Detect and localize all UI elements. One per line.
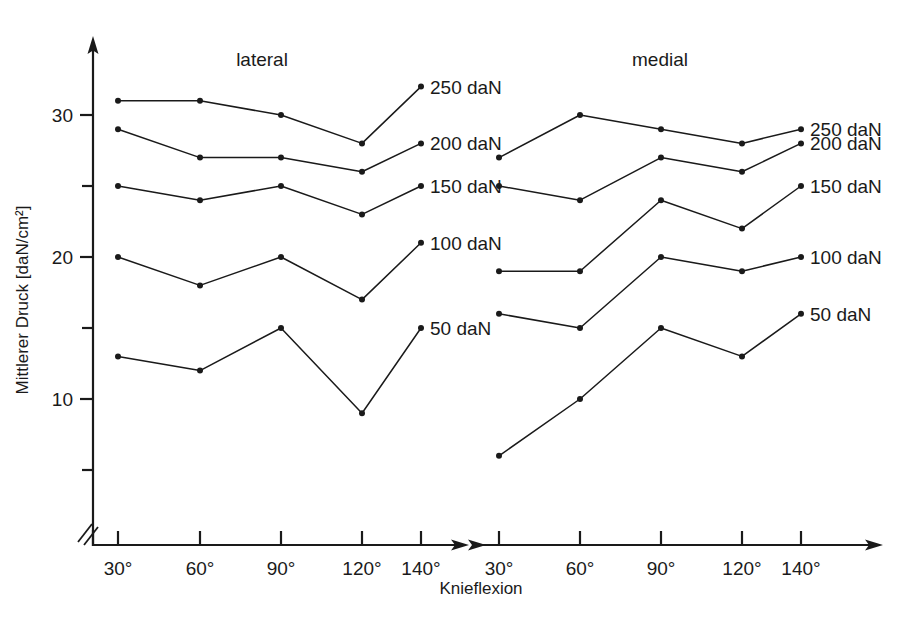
data-point [658,325,664,331]
x-tick-label-lateral-2: 90° [267,558,296,579]
data-point [798,311,804,317]
data-point [577,112,583,118]
x-tick-label-medial-3: 120° [722,558,761,579]
data-point [418,84,424,90]
series-polyline [499,115,801,158]
data-point [197,368,203,374]
series-label-lateral-250-daN: 250 daN [430,77,502,98]
series-medial-250-daN [496,112,804,161]
y-tick-label-20: 20 [52,247,73,268]
data-point [577,325,583,331]
data-point [115,98,121,104]
series-polyline [118,129,421,172]
data-point [496,453,502,459]
data-point [798,126,804,132]
data-point [798,183,804,189]
line-chart-canvas: 102030 30°60°90°120°140°30°60°90°120°140… [0,0,905,622]
data-point [359,410,365,416]
x-tick-label-medial-4: 140° [781,558,820,579]
series-lateral-200-daN [115,126,424,175]
chart-figure: 102030 30°60°90°120°140°30°60°90°120°140… [0,0,905,622]
data-point [197,282,203,288]
series-medial-100-daN [496,254,804,331]
data-point [197,155,203,161]
y-tick-group: 102030 [52,105,93,470]
data-point [278,183,284,189]
data-point [359,169,365,175]
y-tick-label-30: 30 [52,105,73,126]
series-medial-150-daN [496,183,804,274]
data-point [359,211,365,217]
data-point [115,126,121,132]
series-label-lateral-50-daN: 50 daN [430,318,491,339]
panel-title-lateral: lateral [236,49,288,70]
series-polyline [118,186,421,214]
series-polyline [499,257,801,328]
series-label-lateral-150-daN: 150 daN [430,176,502,197]
series-lateral-150-daN [115,183,424,217]
series-polyline [499,314,801,456]
data-point [798,140,804,146]
x-tick-label-lateral-4: 140° [401,558,440,579]
data-point [197,197,203,203]
x-tick-label-medial-0: 30° [485,558,514,579]
data-point [739,226,745,232]
data-point [577,396,583,402]
data-point [496,268,502,274]
series-polyline [499,186,801,271]
panel-title-medial: medial [632,49,688,70]
x-tick-label-medial-1: 60° [566,558,595,579]
y-tick-label-10: 10 [52,389,73,410]
series-polyline [118,87,421,144]
x-axis-title: Knieflexion [439,579,522,598]
series-label-lateral-100-daN: 100 daN [430,233,502,254]
data-point [418,240,424,246]
data-point [798,254,804,260]
data-point [418,183,424,189]
data-point [418,140,424,146]
data-point [739,268,745,274]
x-axis-arrowhead-right-start [468,540,486,551]
data-point [359,140,365,146]
axis-break-mark-1 [78,524,92,542]
x-axis-line-left [93,531,455,545]
data-point [278,254,284,260]
y-axis [78,36,99,545]
data-point [658,126,664,132]
series-medial-50-daN [496,311,804,459]
series-label-medial-200-daN: 200 daN [810,133,882,154]
series-label-medial-50-daN: 50 daN [810,304,871,325]
x-tick-label-lateral-3: 120° [342,558,381,579]
series-polyline [118,243,421,300]
x-axis-right [468,540,883,551]
x-tick-label-lateral-1: 60° [186,558,215,579]
data-point [115,353,121,359]
data-point [577,197,583,203]
x-tick-label-lateral-0: 30° [104,558,133,579]
data-point [359,297,365,303]
series-lateral-100-daN [115,240,424,303]
series-polyline [499,143,801,200]
data-point [739,140,745,146]
data-point [577,268,583,274]
data-point [496,311,502,317]
data-point [115,254,121,260]
data-point [739,169,745,175]
data-point [418,325,424,331]
series-polyline [118,328,421,413]
data-point [496,155,502,161]
data-point [197,98,203,104]
data-point [658,197,664,203]
series-label-medial-150-daN: 150 daN [810,176,882,197]
x-tick-label-medial-2: 90° [647,558,676,579]
axis-break-mark-2 [84,527,98,545]
data-point [278,112,284,118]
data-point [115,183,121,189]
data-point [278,325,284,331]
series-label-group: 250 daN200 daN150 daN100 daN50 daN250 da… [430,77,882,339]
data-point [658,155,664,161]
x-tick-group: 30°60°90°120°140°30°60°90°120°140° [104,531,821,579]
data-point [739,353,745,359]
series-label-lateral-200-daN: 200 daN [430,133,502,154]
series-lateral-50-daN [115,325,424,416]
